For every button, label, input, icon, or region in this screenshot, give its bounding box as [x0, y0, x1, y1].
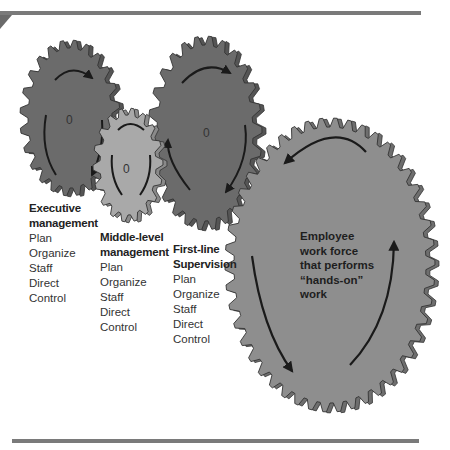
function-item: Organize — [29, 246, 98, 261]
first-line-title: First-line — [173, 242, 237, 257]
function-item: Staff — [173, 302, 237, 317]
function-item: Plan — [100, 260, 169, 275]
employee-text: work — [300, 287, 374, 302]
function-item: Control — [173, 332, 237, 347]
employee-label: Employee work force that performs “hands… — [300, 229, 374, 302]
executive-title: Executive — [29, 201, 98, 216]
first-line-label: First-line Supervision Plan Organize Sta… — [173, 242, 237, 347]
bottom-rule — [12, 439, 419, 443]
function-item: Direct — [29, 276, 98, 291]
function-item: Control — [29, 291, 98, 306]
middle-title: Middle-level — [100, 230, 169, 245]
middle-title: management — [100, 245, 169, 260]
function-item: Organize — [173, 287, 237, 302]
gear-center-mark: 0 — [203, 126, 210, 140]
function-item: Direct — [173, 317, 237, 332]
function-item: Direct — [100, 305, 169, 320]
middle-label: Middle-level management Plan Organize St… — [100, 230, 169, 335]
function-item: Staff — [29, 261, 98, 276]
function-item: Plan — [29, 231, 98, 246]
function-item: Organize — [100, 275, 169, 290]
executive-label: Executive management Plan Organize Staff… — [29, 201, 98, 306]
employee-text: “hands-on” — [300, 273, 374, 288]
function-item: Control — [100, 320, 169, 335]
employee-text: Employee — [300, 229, 374, 244]
executive-title: management — [29, 216, 98, 231]
employee-text: that performs — [300, 258, 374, 273]
function-item: Staff — [100, 290, 169, 305]
gear-center-mark: 0 — [66, 113, 73, 127]
first-line-title: Supervision — [173, 257, 237, 272]
function-item: Plan — [173, 272, 237, 287]
gear-center-mark: 0 — [123, 162, 130, 176]
employee-text: work force — [300, 244, 374, 259]
